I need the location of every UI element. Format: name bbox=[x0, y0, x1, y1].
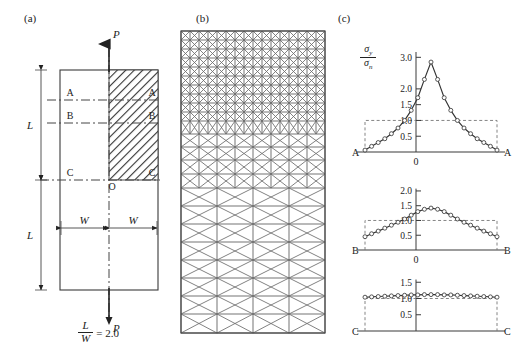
stress-ratio-denominator: σn bbox=[360, 58, 376, 71]
data-point-marker bbox=[383, 226, 387, 230]
data-point-marker bbox=[403, 293, 407, 297]
data-point-marker bbox=[469, 294, 473, 298]
data-point-marker bbox=[475, 137, 479, 141]
y-tick-label: 1.5 bbox=[400, 278, 412, 288]
data-point-marker bbox=[455, 118, 459, 122]
data-point-marker bbox=[389, 132, 393, 136]
plot-right-label: A bbox=[504, 147, 512, 158]
data-point-marker bbox=[482, 229, 486, 233]
y-tick-label: 3.0 bbox=[400, 53, 412, 63]
data-point-marker bbox=[482, 141, 486, 145]
data-point-marker bbox=[488, 232, 492, 236]
dim-label-w-right: W bbox=[128, 214, 138, 226]
aspect-ratio-denominator: W bbox=[78, 333, 93, 345]
plot-right-label: B bbox=[504, 245, 511, 256]
data-point-marker bbox=[436, 293, 440, 297]
y-tick-label: 0.5 bbox=[400, 310, 412, 320]
figure-root: 0.51.01.52.03.0AA0 0.51.01.52.0BB0 0.51.… bbox=[0, 0, 518, 351]
data-point-marker bbox=[409, 108, 413, 112]
panel-a-label: (a) bbox=[24, 12, 36, 24]
data-point-marker bbox=[455, 293, 459, 297]
data-point-marker bbox=[396, 126, 400, 130]
panel-b bbox=[181, 31, 325, 333]
load-label-top: P bbox=[112, 28, 120, 40]
panel-a bbox=[35, 44, 160, 325]
data-point-marker bbox=[429, 60, 433, 64]
data-point-marker bbox=[416, 293, 420, 297]
section-label-right-C: C bbox=[149, 167, 156, 178]
data-point-marker bbox=[396, 294, 400, 298]
data-point-marker bbox=[389, 223, 393, 227]
panel-c-label: (c) bbox=[338, 12, 350, 24]
reference-stress-box bbox=[365, 120, 497, 152]
data-point-marker bbox=[429, 293, 433, 297]
data-point-marker bbox=[370, 232, 374, 236]
data-point-marker bbox=[436, 77, 440, 81]
data-point-marker bbox=[376, 295, 380, 299]
data-point-marker bbox=[449, 213, 453, 217]
data-point-marker bbox=[495, 295, 499, 299]
panel-c: 0.51.01.52.03.0AA0 0.51.01.52.0BB0 0.51.… bbox=[352, 52, 512, 337]
data-point-marker bbox=[376, 229, 380, 233]
data-point-marker bbox=[488, 144, 492, 148]
data-point-marker bbox=[462, 294, 466, 298]
data-point-marker bbox=[383, 137, 387, 141]
data-point-marker bbox=[442, 293, 446, 297]
aspect-ratio-numerator: L bbox=[78, 320, 93, 333]
data-point-marker bbox=[363, 235, 367, 239]
plot-left-label: B bbox=[352, 245, 359, 256]
data-point-marker bbox=[429, 206, 433, 210]
data-point-marker bbox=[422, 293, 426, 297]
data-point-marker bbox=[422, 77, 426, 81]
data-point-marker bbox=[376, 141, 380, 145]
data-point-marker bbox=[462, 220, 466, 224]
data-point-marker bbox=[403, 118, 407, 122]
data-point-marker bbox=[482, 295, 486, 299]
y-tick-label: 2.0 bbox=[400, 84, 412, 94]
y-tick-label: 2.0 bbox=[400, 186, 412, 196]
data-point-marker bbox=[469, 223, 473, 227]
data-point-marker bbox=[416, 210, 420, 214]
data-point-marker bbox=[469, 132, 473, 136]
plot-origin-label: 0 bbox=[414, 254, 419, 265]
data-point-marker bbox=[442, 210, 446, 214]
plot-left-label: A bbox=[352, 147, 360, 158]
data-point-marker bbox=[442, 96, 446, 100]
y-tick-label: 1.5 bbox=[400, 201, 412, 211]
data-point-marker bbox=[403, 217, 407, 221]
origin-label: O bbox=[108, 181, 115, 192]
data-point-marker bbox=[475, 294, 479, 298]
data-point-marker bbox=[488, 295, 492, 299]
data-point-marker bbox=[389, 294, 393, 298]
dim-label-l-lower: L bbox=[26, 229, 33, 241]
section-label-left-C: C bbox=[67, 167, 74, 178]
stress-ratio-numerator: σy bbox=[360, 44, 376, 58]
data-point-marker bbox=[455, 217, 459, 221]
data-point-marker bbox=[462, 126, 466, 130]
aspect-ratio-annotation: L W = 2.0 bbox=[78, 320, 119, 344]
data-point-marker bbox=[363, 148, 367, 152]
figure-canvas: 0.51.01.52.03.0AA0 0.51.01.52.0BB0 0.51.… bbox=[0, 0, 518, 351]
plot-right-label: C bbox=[504, 326, 511, 337]
panel-b-label: (b) bbox=[196, 12, 209, 24]
dim-label-l-upper: L bbox=[26, 119, 33, 131]
reference-stress-box bbox=[365, 220, 497, 250]
data-point-marker bbox=[409, 293, 413, 297]
finite-element-mesh bbox=[181, 31, 325, 333]
aspect-ratio-value: = 2.0 bbox=[96, 325, 119, 339]
data-point-marker bbox=[422, 207, 426, 211]
data-point-marker bbox=[416, 96, 420, 100]
data-point-marker bbox=[370, 295, 374, 299]
section-label-left-A: A bbox=[66, 87, 74, 98]
reference-stress-box bbox=[365, 299, 497, 332]
section-label-right-A: A bbox=[148, 87, 156, 98]
data-point-marker bbox=[449, 293, 453, 297]
plot-section-b: 0.51.01.52.0BB0 bbox=[352, 186, 511, 265]
stress-ratio-label: σy σn bbox=[360, 44, 376, 72]
section-label-right-B: B bbox=[149, 110, 156, 121]
data-point-marker bbox=[383, 294, 387, 298]
data-point-marker bbox=[495, 235, 499, 239]
data-point-marker bbox=[436, 207, 440, 211]
data-point-marker bbox=[475, 226, 479, 230]
plot-section-c: 0.51.01.5CC bbox=[352, 278, 511, 337]
